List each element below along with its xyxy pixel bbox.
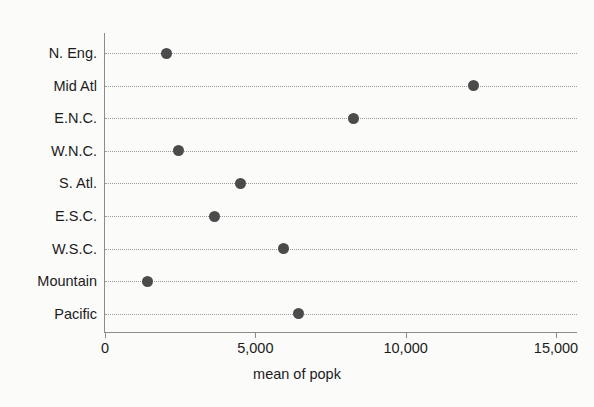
y-axis-tick-label: W.N.C. [0,143,97,159]
data-point[interactable] [235,178,246,189]
gridline [105,118,577,119]
x-axis-tick-label: 0 [101,340,109,356]
data-point[interactable] [278,243,289,254]
y-axis-tick-label: Pacific [0,306,97,322]
x-axis-tick-mark [556,333,557,338]
data-point[interactable] [468,80,479,91]
x-axis-tick-mark [406,333,407,338]
plot-area [105,33,577,332]
x-axis-tick-mark [105,333,106,338]
x-axis-tick-label: 10,000 [383,340,427,356]
gridline [105,86,577,87]
y-axis-tick-label: E.S.C. [0,208,97,224]
dot-plot-figure: mean of popk N. Eng.Mid AtlE.N.C.W.N.C.S… [0,0,594,407]
x-axis-title: mean of popk [0,366,594,382]
data-point[interactable] [293,308,304,319]
data-point[interactable] [209,211,220,222]
data-point[interactable] [348,113,359,124]
data-point[interactable] [161,48,172,59]
data-point[interactable] [173,145,184,156]
y-axis-tick-label: N. Eng. [0,45,97,61]
gridline [105,281,577,282]
gridline [105,183,577,184]
y-axis-tick-label: Mid Atl [0,78,97,94]
x-axis-tick-label: 5,000 [237,340,273,356]
y-axis-tick-label: Mountain [0,273,97,289]
gridline [105,249,577,250]
gridline [105,216,577,217]
x-axis-tick-label: 15,000 [534,340,578,356]
x-axis-tick-mark [255,333,256,338]
y-axis-tick-label: W.S.C. [0,241,97,257]
y-axis-tick-label: S. Atl. [0,175,97,191]
gridline [105,53,577,54]
x-axis-line [104,332,577,333]
data-point[interactable] [142,276,153,287]
y-axis-tick-label: E.N.C. [0,110,97,126]
gridline [105,314,577,315]
